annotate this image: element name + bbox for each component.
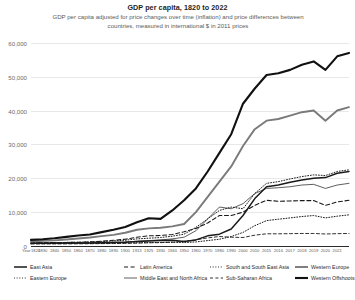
y-axis-tick-label: 30,000 (8, 141, 27, 148)
legend-swatch-icon (124, 264, 137, 270)
legend-swatch-icon (14, 264, 27, 270)
x-axis-tick-label: 1925 (144, 248, 153, 253)
legend-swatch-icon (210, 264, 223, 270)
legend-item[interactable]: Western Europe (295, 264, 349, 270)
legend-item[interactable]: Eastern Europe (14, 275, 67, 281)
x-axis-tick-label: 2018 (297, 248, 306, 253)
x-axis-tick-label: 1930 (156, 248, 165, 253)
legend-item-label: Western Europe (311, 264, 349, 270)
legend-item-label: Western Offshoots (311, 275, 355, 281)
chart-legend: East AsiaEastern EuropeLatin AmericaMidd… (14, 264, 355, 288)
legend-swatch-icon (210, 275, 223, 281)
x-axis-tick-label: 1880 (97, 248, 106, 253)
legend-item[interactable]: Sub-Saharan Africa (210, 275, 272, 281)
x-axis-tick-label: 2019 (309, 248, 318, 253)
x-axis-tick-label: 2015 (262, 248, 271, 253)
legend-item[interactable]: South and South East Asia (210, 264, 289, 270)
legend-item-label: Middle East and North Africa (140, 275, 207, 281)
x-axis-tick-label: 1970 (203, 248, 212, 253)
x-axis-tick-label: 2020 (321, 248, 330, 253)
chart-container: GDP per capita, 1820 to 2022 GDP per cap… (0, 0, 355, 300)
series-line (31, 200, 349, 243)
x-axis-tick-label: 2010 (250, 248, 259, 253)
y-axis-tick-label: 40,000 (8, 107, 27, 114)
x-axis-tick-label: 1870 (85, 248, 94, 253)
legend-item[interactable]: Middle East and North Africa (124, 275, 207, 281)
y-axis-tick-label: 10,000 (8, 209, 27, 216)
series-line (31, 183, 349, 243)
y-axis-tick-label: 50,000 (8, 73, 27, 80)
legend-item[interactable]: Latin America (124, 264, 172, 270)
legend-item[interactable]: East Asia (14, 264, 52, 270)
x-axis-tick-label: 1900 (121, 248, 130, 253)
legend-item-label: Sub-Saharan Africa (226, 275, 272, 281)
legend-swatch-icon (124, 275, 137, 281)
series-line (31, 107, 349, 241)
x-axis-label: Year (22, 248, 30, 253)
series-line (31, 171, 349, 243)
x-axis-tick-label: 1990 (227, 248, 236, 253)
legend-item[interactable]: Western Offshoots (295, 275, 355, 281)
y-axis-tick-label: 20,000 (8, 175, 27, 182)
series-lines (31, 36, 349, 246)
legend-item-label: Latin America (140, 264, 172, 270)
x-axis-tick-label: 2000 (238, 248, 247, 253)
x-axis-tick-label: 1950 (179, 248, 188, 253)
legend-item-label: East Asia (30, 264, 52, 270)
legend-item-label: South and South East Asia (226, 264, 289, 270)
axis-baseline (31, 246, 349, 247)
legend-swatch-icon (295, 275, 308, 281)
x-axis-tick-label: 1913 (132, 248, 141, 253)
x-axis: Year 18201830184018501860187018801890190… (22, 248, 355, 258)
plot-area: 60,00050,00040,00030,00020,00010,0000 (31, 36, 349, 246)
legend-item-label: Eastern Europe (30, 275, 67, 281)
x-axis-tick-label: 1940 (168, 248, 177, 253)
x-axis-tick-label: 1890 (109, 248, 118, 253)
x-axis-tick-label: 2017 (285, 248, 294, 253)
x-axis-tick-label: 1840 (50, 248, 59, 253)
x-axis-tick-label: 1860 (73, 248, 82, 253)
chart-subtitle: GDP per capita adjusted for price change… (42, 13, 314, 30)
x-axis-tick-label: 2021 (333, 248, 342, 253)
y-axis-tick-label: 60,000 (8, 39, 27, 46)
legend-swatch-icon (295, 264, 308, 270)
x-axis-tick-label: 1850 (62, 248, 71, 253)
legend-swatch-icon (14, 275, 27, 281)
x-axis-tick-label: 1960 (191, 248, 200, 253)
chart-title: GDP per capita, 1820 to 2022 (0, 3, 355, 12)
x-axis-tick-label: 2016 (274, 248, 283, 253)
x-axis-tick-label: 1980 (215, 248, 224, 253)
x-axis-tick-label: 1830 (38, 248, 47, 253)
series-line (31, 53, 349, 240)
